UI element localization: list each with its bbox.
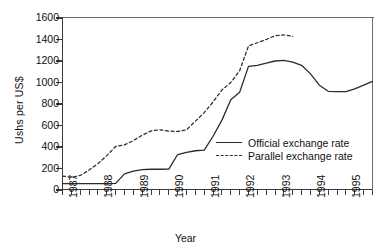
x-axis-title-text: Year (175, 232, 196, 244)
chart-legend: Official exchange rate Parallel exchange… (216, 136, 352, 162)
legend-swatch-solid-line-icon (216, 137, 242, 148)
series-line-official-exchange-rate (63, 60, 373, 183)
legend-item-parallel: Parallel exchange rate (216, 149, 352, 162)
x-axis-title: Year (0, 232, 387, 244)
legend-label-parallel: Parallel exchange rate (248, 150, 352, 162)
data-series-layer (0, 0, 387, 252)
legend-item-official: Official exchange rate (216, 136, 352, 149)
legend-swatch-dashed-line-icon (216, 150, 242, 161)
legend-label-official: Official exchange rate (248, 137, 349, 149)
exchange-rate-line-chart: Ushs per US$ 020040060080010001200140016… (0, 0, 387, 252)
